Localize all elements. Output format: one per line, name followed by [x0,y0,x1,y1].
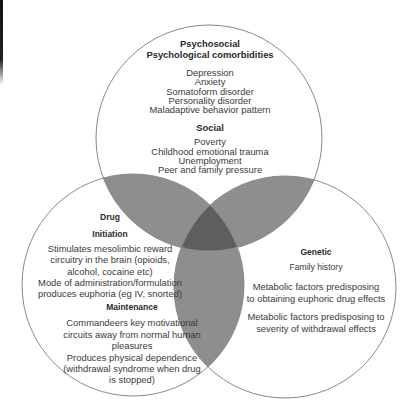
drug-title: Drug [20,212,200,223]
list-item: Metabolic factors predisposing [226,281,406,292]
psychosocial-title: Psychosocial [110,38,310,49]
genetic-title: Genetic [246,247,386,258]
list-item: severity of withdrawal effects [226,323,406,334]
list-item: circuits away from normal human [44,329,220,340]
list-item: Peer and family pressure [110,164,310,175]
psychosocial-text: Psychosocial Psychological comorbidities… [110,38,310,176]
list-item: Metabolic factors predisposing to [226,311,406,322]
maintenance-heading: Maintenance [44,302,220,313]
list-item: Commandeers key motivational [44,317,220,328]
psychological-comorbidities-heading: Psychological comorbidities [110,49,310,60]
list-item: Stimulates mesolimbic reward [20,243,200,254]
list-item: Produces physical dependence [44,352,220,363]
list-item: is stopped) [44,374,220,385]
list-item: pleasures [44,340,220,351]
list-item: circuitry in the brain (opioids, [20,254,200,265]
list-item: to obtaining euphoric drug effects [226,293,406,304]
genetic-text: Genetic [246,247,386,258]
initiation-heading: Initiation [20,229,200,240]
drug-text: Drug Initiation Stimulates mesolimbic re… [20,212,200,300]
genetic-items: Family history Metabolic factors predisp… [226,262,406,334]
list-item: alcohol, cocaine etc) [20,266,200,277]
social-heading: Social [110,122,310,133]
list-item: Maladaptive behavior pattern [110,104,310,115]
list-item: Mode of administration/formulation [20,277,200,288]
drug-maintenance-text: Maintenance Commandeers key motivational… [44,302,220,386]
list-item: (withdrawal syndrome when drug [44,363,220,374]
list-item: produces euphoria (eg IV, snorted) [20,288,200,299]
list-item: Family history [226,262,406,273]
